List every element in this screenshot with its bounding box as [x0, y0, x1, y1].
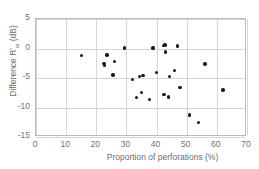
- chart-title: [46, 0, 186, 6]
- x-tick-label: 60: [204, 139, 228, 150]
- y-axis-label-wrap: Difference R'w (dB): [7, 0, 19, 126]
- data-point: [162, 93, 165, 96]
- data-point: [151, 46, 154, 49]
- x-tick-label: 30: [113, 139, 137, 150]
- data-point: [131, 78, 134, 81]
- data-point: [164, 50, 167, 53]
- x-axis-label: Proportion of perforations (%): [70, 152, 255, 163]
- gridline-y--10: [36, 108, 245, 109]
- gridline-y-5: [36, 19, 245, 20]
- x-tick-label: 20: [83, 139, 107, 150]
- plot-area: [35, 18, 246, 136]
- data-point: [173, 69, 176, 72]
- gridline-x-0: [36, 19, 37, 135]
- x-tick-label: 10: [53, 139, 77, 150]
- y-axis-label-subscript: w: [14, 44, 20, 48]
- data-point: [105, 53, 108, 56]
- data-point: [103, 64, 106, 67]
- data-point: [113, 60, 116, 63]
- gridline-x-60: [217, 19, 218, 135]
- data-point: [148, 98, 151, 101]
- gridline-x-30: [126, 19, 127, 135]
- y-axis-label: Difference R'w (dB): [7, 0, 23, 126]
- y-tick-label: -15: [2, 130, 30, 141]
- data-point: [123, 46, 126, 49]
- data-point: [197, 121, 200, 124]
- data-point: [203, 62, 206, 65]
- gridline-x-70: [247, 19, 248, 135]
- gridline-y--5: [36, 78, 245, 79]
- x-tick-label: 40: [144, 139, 168, 150]
- scatter-chart-figure: 010203040506070 50-5-10-15 Proportion of…: [0, 0, 259, 169]
- gridline-x-40: [157, 19, 158, 135]
- data-point: [176, 44, 179, 47]
- data-point: [80, 54, 83, 57]
- data-point: [163, 43, 166, 46]
- gridline-x-20: [96, 19, 97, 135]
- x-tick-label: 50: [174, 139, 198, 150]
- data-point: [135, 96, 138, 99]
- gridline-y--15: [36, 137, 245, 138]
- gridline-x-10: [66, 19, 67, 135]
- data-point: [155, 71, 158, 74]
- data-point: [141, 74, 144, 77]
- x-tick-label: 70: [234, 139, 258, 150]
- data-point: [221, 88, 224, 91]
- gridline-y-0: [36, 49, 245, 50]
- data-point: [188, 113, 191, 116]
- data-point: [167, 95, 170, 98]
- data-point: [111, 73, 114, 76]
- data-point: [140, 91, 143, 94]
- data-point: [178, 86, 181, 89]
- gridline-x-50: [187, 19, 188, 135]
